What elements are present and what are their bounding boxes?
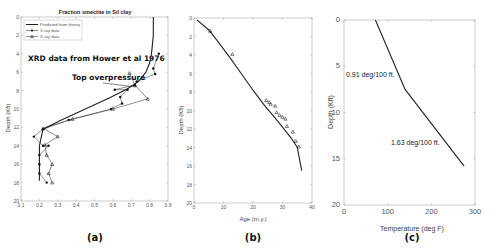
y-tick-label: 15 — [332, 154, 340, 163]
panel-c-ticks: 010020030005101520 — [332, 15, 482, 216]
x-tick-label: 0.2 — [36, 202, 43, 208]
x-tick-label: 20 — [250, 204, 256, 210]
annotation-top-overpressure: Top overpressure — [72, 73, 145, 82]
y-tick-label: 10 — [13, 106, 19, 112]
figure-canvas: Fraction smectite in Sil clay 0.10.20.30… — [0, 0, 492, 249]
data-point-circle — [38, 154, 40, 156]
x-tick-label: 0.5 — [91, 202, 98, 208]
data-point-circle — [47, 145, 49, 147]
panel-c-temperature-chart: 010020030005101520 Depth (Kft) Temperatu… — [327, 15, 481, 233]
y-tick-label: 0 — [16, 14, 19, 20]
data-point-circle — [158, 53, 160, 55]
panel-b-ticks: 01020304002468101214161820 — [186, 15, 315, 210]
x-tick-label: 0.3 — [54, 202, 61, 208]
caption-a: (a) — [87, 232, 103, 243]
panel-b-axes-box — [194, 18, 312, 203]
y-tick-label: 16 — [13, 161, 19, 167]
y-tick-label: 12 — [186, 126, 192, 132]
y-tick-label: 20 — [332, 200, 340, 209]
panel-b-age-depth-chart: 01020304002468101214161820 Depth (Kft) A… — [178, 15, 315, 222]
data-point-circle — [38, 172, 40, 174]
y-tick-label: 4 — [16, 51, 19, 57]
panel-a-axes-box — [21, 17, 168, 201]
x-tick-label: 30 — [280, 204, 286, 210]
data-point-circle — [119, 96, 121, 98]
data-point-triangle — [231, 53, 234, 56]
x-tick-label: 300 — [469, 207, 482, 216]
x-tick-label: 0 — [342, 207, 346, 216]
data-point-circle — [154, 73, 156, 75]
panel-b-series — [197, 20, 302, 171]
y-tick-label: 6 — [16, 69, 19, 75]
data-point-triangle — [294, 140, 297, 143]
caption-c: (c) — [404, 232, 419, 243]
y-tick-label: 16 — [186, 163, 192, 169]
panel-a-title: Fraction smectite in Sil clay — [59, 9, 132, 15]
data-point-circle — [38, 163, 40, 165]
y-tick-label: 18 — [186, 182, 192, 188]
y-tick-label: 20 — [186, 200, 192, 206]
data-point-triangle — [265, 99, 268, 102]
data-point-triangle — [284, 117, 287, 120]
data-point-triangle — [269, 103, 272, 106]
series-line — [39, 17, 153, 181]
data-point-triangle — [275, 111, 278, 114]
x-tick-label: 0.7 — [128, 202, 135, 208]
data-point-triangle — [281, 115, 284, 118]
y-tick-label: 2 — [189, 34, 192, 40]
y-tick-label: 14 — [13, 143, 19, 149]
legend-xray-circles: X-ray data — [40, 28, 60, 33]
x-tick-label: 0.4 — [73, 202, 80, 208]
annotation-gradient-upper: 0.91 deg/100 ft. — [346, 71, 395, 79]
series-line — [43, 73, 148, 183]
x-tick-label: 0.6 — [109, 202, 116, 208]
panel-b-ylabel: Depth (Kft) — [178, 105, 184, 134]
y-tick-label: 18 — [13, 180, 19, 186]
legend-predicted: Predicted from theory — [40, 22, 81, 27]
annotation-gradient-lower: 1.63 deg/100 ft. — [391, 139, 440, 147]
y-tick-label: 5 — [336, 61, 340, 70]
y-tick-label: 14 — [186, 145, 192, 151]
series-line — [197, 20, 302, 171]
panel-a-smectite-chart: Fraction smectite in Sil clay 0.10.20.30… — [5, 9, 172, 208]
data-point-circle — [121, 102, 123, 104]
data-point-circle — [114, 88, 116, 90]
caption-b: (b) — [245, 232, 261, 243]
y-tick-label: 4 — [189, 52, 192, 58]
x-tick-label: 200 — [425, 207, 438, 216]
y-tick-label: 6 — [189, 71, 192, 77]
y-tick-label: 8 — [189, 89, 192, 95]
y-tick-label: 10 — [186, 108, 192, 114]
panel-a-series — [33, 17, 160, 184]
x-tick-label: 0.9 — [165, 202, 172, 208]
data-point-triangle — [297, 145, 300, 148]
legend-xray-triangles: X-ray data — [40, 34, 60, 39]
x-tick-label: 0 — [193, 204, 196, 210]
panel-b-xlabel: Age (m.y.) — [239, 216, 266, 222]
panel-c-ylabel: Depth (Kft) — [327, 95, 335, 129]
data-point-triangle — [278, 114, 281, 117]
y-tick-label: 20 — [13, 198, 19, 204]
y-tick-label: 0 — [189, 15, 192, 21]
panel-a-ticks: 0.10.20.30.40.50.60.70.80.90246810121416… — [13, 14, 171, 208]
panel-c-axes-box — [344, 20, 475, 205]
y-tick-label: 2 — [16, 32, 19, 38]
annotation-xrd-source: XRD data from Hower et al 1976 — [28, 54, 165, 63]
data-point-circle — [46, 181, 48, 183]
data-point-triangle — [291, 130, 294, 133]
panel-a-ylabel: Depth (Kft) — [5, 103, 11, 132]
x-tick-label: 10 — [221, 204, 227, 210]
data-point-circle — [152, 67, 154, 69]
y-tick-label: 8 — [16, 88, 19, 94]
data-point-circle — [126, 88, 128, 90]
panel-a-legend: Predicted from theory X-ray data X-ray d… — [24, 20, 82, 40]
x-tick-label: 40 — [309, 204, 315, 210]
data-point-triangle — [285, 125, 288, 128]
x-tick-label: 100 — [381, 207, 394, 216]
y-tick-label: 0 — [336, 15, 340, 24]
x-tick-label: 0.8 — [146, 202, 153, 208]
y-tick-label: 12 — [13, 124, 19, 130]
data-point-circle — [33, 135, 35, 137]
data-point-triangle — [274, 104, 277, 107]
data-point-circle — [136, 80, 138, 82]
